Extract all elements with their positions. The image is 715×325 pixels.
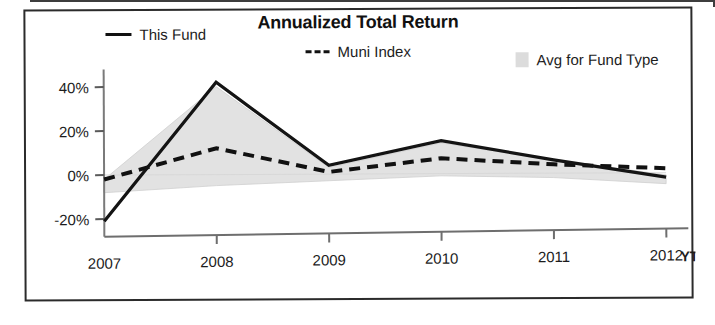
x-tick-label: 2010 <box>425 250 458 267</box>
y-axis-tick-labels: 40%20%0%-20% <box>54 79 90 228</box>
chart-svg: 40%20%0%-20% 200720082009201020112012 YT… <box>25 9 695 304</box>
x-tick-label: 2011 <box>538 248 570 265</box>
plot-area: 40%20%0%-20% 200720082009201020112012 YT… <box>25 9 691 300</box>
avg-for-fund-type-area <box>104 85 666 193</box>
chart-panel: Annualized Total Return This Fund Muni I… <box>23 7 693 302</box>
y-axis-line <box>104 70 105 237</box>
y-tick-label: 0% <box>67 167 89 184</box>
x-tick-label: 2009 <box>313 251 346 268</box>
y-tick-label: 40% <box>59 79 89 96</box>
x-tick-label: 2012 <box>650 246 683 263</box>
y-tick-label: 20% <box>59 123 89 140</box>
x-tick-label: 2007 <box>88 255 121 272</box>
x-axis-tick-labels: 200720082009201020112012 <box>88 246 683 271</box>
x-tick-label: 2008 <box>200 253 233 270</box>
x-axis-line <box>104 228 688 237</box>
ytd-label: YTD <box>680 248 695 264</box>
y-tick-label: -20% <box>54 211 89 228</box>
